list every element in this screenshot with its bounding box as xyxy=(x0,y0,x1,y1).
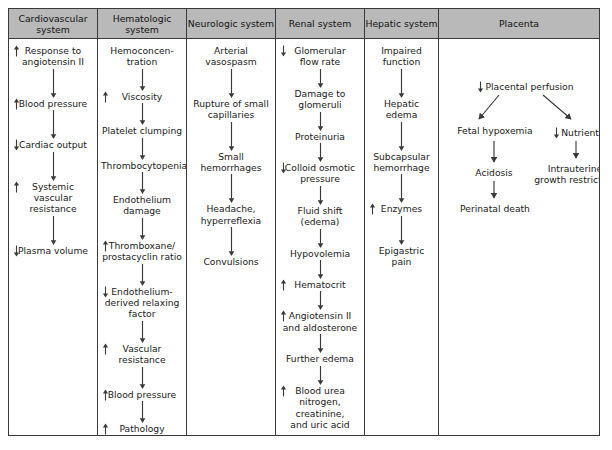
column-body-placenta: Placental perfusionFetal hypoxemiaAcidos… xyxy=(439,39,599,435)
flow-node-label: Viscosity xyxy=(122,91,162,102)
column-body-renal: Glomerular flow rateDamage to glomeruliP… xyxy=(276,39,365,435)
header-label: Neurologic system xyxy=(188,18,274,29)
flow-connector-arrow-icon xyxy=(316,365,325,385)
flow-connector-arrow-icon xyxy=(316,111,325,131)
flow-node: Small hemorrhages xyxy=(187,151,275,174)
flow-node: Angiotensin II and aldosterone xyxy=(276,310,364,333)
flow-connector-arrow-icon xyxy=(316,142,325,162)
flow-node: Cardiac output xyxy=(9,139,97,150)
flow-node-label: Glomerular flow rate xyxy=(294,45,345,68)
flow-node-label: Damage to glomeruli xyxy=(295,88,346,111)
column-body-hematologic: Hemoconcen- trationViscosityPlatelet clu… xyxy=(98,39,187,435)
column-header-hepatic: Hepatic system xyxy=(365,9,439,38)
flow-node-label: Endothelium- derived relaxing factor xyxy=(105,286,180,320)
flow-node-label: Plasma volume xyxy=(18,245,88,256)
increase-arrow-icon xyxy=(101,343,110,355)
flow-node: Plasma volume xyxy=(9,245,97,256)
header-label: Placenta xyxy=(499,18,539,29)
flow-node-label: Hypovolemia xyxy=(290,248,350,259)
flow-connector-arrow-icon xyxy=(138,366,147,389)
flow-connector-arrow-icon xyxy=(397,173,406,203)
increase-arrow-icon xyxy=(101,240,110,252)
flow-node: Endothelium- derived relaxing factor xyxy=(98,286,186,320)
flow-node-label: Vascular resistance xyxy=(101,343,183,366)
flow-connector-arrow-icon xyxy=(138,320,147,343)
flow-node-label: Impaired function xyxy=(368,45,435,68)
decrease-arrow-icon xyxy=(279,45,288,57)
flow-connector-arrow-icon xyxy=(316,259,325,279)
flow-connector-arrow-icon xyxy=(49,68,58,98)
increase-arrow-icon xyxy=(279,385,288,397)
flow-connector-arrow-icon xyxy=(138,68,147,91)
cascade-chain-hematologic: Hemoconcen- trationViscosityPlatelet clu… xyxy=(98,45,186,435)
flow-connector-arrow-icon xyxy=(49,215,58,245)
flow-node-label: Thrombocytopenia xyxy=(101,160,187,171)
flow-connector-arrow-icon xyxy=(316,68,325,88)
column-header-neurologic: Neurologic system xyxy=(187,9,276,38)
flow-connector-arrow-icon xyxy=(316,333,325,353)
increase-arrow-icon xyxy=(12,98,21,110)
flow-node: Hypovolemia xyxy=(276,248,364,259)
header-label: Hematologic system xyxy=(98,13,186,35)
increase-arrow-icon xyxy=(101,91,110,103)
column-body-neurologic: Arterial vasospasmRupture of small capil… xyxy=(187,39,276,435)
increase-arrow-icon xyxy=(101,389,110,401)
flow-node-label: Pathology xyxy=(119,423,164,434)
flow-node: Thromboxane/ prostacyclin ratio xyxy=(98,240,186,263)
flow-node: Glomerular flow rate xyxy=(276,45,364,68)
cascade-chain-cardiovascular: Response to angiotensin IIBlood pressure… xyxy=(9,45,97,256)
flow-node-label: Blood pressure xyxy=(19,98,88,109)
flow-connector-arrow-icon xyxy=(138,400,147,423)
flow-node: Endothelium damage xyxy=(98,194,186,217)
flow-node: Hematocrit xyxy=(276,279,364,290)
flow-node-label: Angiotensin II and aldosterone xyxy=(283,310,358,333)
flow-node-label: Thromboxane/ prostacyclin ratio xyxy=(102,240,182,263)
flow-connector-arrow-icon xyxy=(316,228,325,248)
flow-connector-arrow-icon xyxy=(397,121,406,151)
flow-connector-arrow-icon xyxy=(397,215,406,245)
flow-node-label: Hepatic edema xyxy=(368,98,435,121)
cascade-chain-neurologic: Arterial vasospasmRupture of small capil… xyxy=(187,45,275,268)
flow-node: Response to angiotensin II xyxy=(9,45,97,68)
header-label: Hepatic system xyxy=(365,18,437,29)
flowchart-table: Cardiovascular system Hematologic system… xyxy=(8,8,600,436)
flow-node-label: Blood urea nitrogen, creatinine, and uri… xyxy=(290,385,349,431)
flow-node-label: Colloid osmotic pressure xyxy=(285,162,355,185)
flow-node-label: Hemoconcen- tration xyxy=(110,45,173,68)
flow-connector-arrow-icon xyxy=(138,171,147,194)
flow-node: Rupture of small capillaries xyxy=(187,98,275,121)
column-body-hepatic: Impaired functionHepatic edemaSubcapsula… xyxy=(365,39,439,435)
flow-node-label: Blood pressure xyxy=(108,389,177,400)
flow-node: Damage to glomeruli xyxy=(276,88,364,111)
flow-node: Subcapsular hemorrhage xyxy=(365,151,438,174)
placenta-connector-arrows-icon xyxy=(439,45,599,245)
flow-node-label: Response to angiotensin II xyxy=(22,45,84,68)
flow-node-label: Endothelium damage xyxy=(113,194,171,217)
flow-connector-arrow-icon xyxy=(49,109,58,139)
flow-node-label: Systemic vascular resistance xyxy=(12,181,94,215)
increase-arrow-icon xyxy=(279,310,288,322)
flow-node-label: Platelet clumping xyxy=(102,125,182,136)
flow-connector-arrow-icon xyxy=(138,217,147,240)
flow-connector-arrow-icon xyxy=(316,290,325,310)
column-header-hematologic: Hematologic system xyxy=(98,9,187,38)
flow-node: Impaired function xyxy=(365,45,438,68)
decrease-arrow-icon xyxy=(279,162,288,174)
header-label: Renal system xyxy=(289,18,352,29)
flow-node: Arterial vasospasm xyxy=(187,45,275,68)
column-header-cardiovascular: Cardiovascular system xyxy=(9,9,98,38)
flow-node: Convulsions xyxy=(187,256,275,267)
flow-connector-arrow-icon xyxy=(227,68,236,98)
flow-connector-arrow-icon xyxy=(397,68,406,98)
header-label: Cardiovascular system xyxy=(9,13,97,35)
flow-node-label: Enzymes xyxy=(381,203,422,214)
flow-node-label: Arterial vasospasm xyxy=(190,45,272,68)
increase-arrow-icon xyxy=(12,45,21,57)
flow-node-label: Rupture of small capillaries xyxy=(193,98,268,121)
placenta-branch-diagram: Placental perfusionFetal hypoxemiaAcidos… xyxy=(439,45,599,435)
decrease-arrow-icon xyxy=(12,245,21,257)
flow-node-label: Proteinuria xyxy=(295,131,345,142)
flow-node-label: Fluid shift (edema) xyxy=(298,205,343,228)
increase-arrow-icon xyxy=(12,181,21,193)
flow-connector-arrow-icon xyxy=(316,185,325,205)
